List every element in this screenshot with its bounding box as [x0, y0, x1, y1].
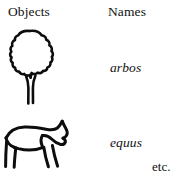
column-header-names: Names [108, 5, 146, 19]
horse-sketch-icon [0, 116, 78, 178]
tree-sketch-icon [4, 26, 66, 108]
column-header-objects: Objects [8, 5, 50, 19]
objects-names-figure: Objects Names arbos equus etc. [0, 0, 195, 180]
name-label-arbos: arbos [110, 61, 141, 75]
continuation-label-etc: etc. [152, 160, 170, 173]
name-label-equus: equus [110, 136, 142, 150]
